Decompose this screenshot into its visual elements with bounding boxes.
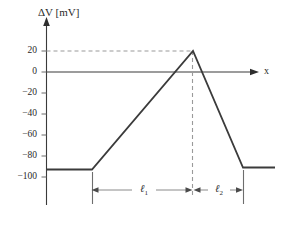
x-axis-arrowhead	[250, 69, 259, 76]
y-tick-label-m80: −80	[22, 150, 37, 160]
segment-2-measure: ℓ2	[194, 182, 244, 197]
x-axis	[47, 69, 260, 76]
y-axis-title: ΔV [mV]	[38, 6, 79, 18]
voltage-profile-figure: ΔV [mV] x 20 0 −20 −40 −60 −80 −100	[0, 0, 285, 225]
y-axis-arrowhead	[43, 17, 50, 26]
y-tick-marks	[42, 51, 47, 177]
y-tick-label-m100: −100	[17, 171, 37, 181]
segment-2-arrow-left	[194, 187, 201, 193]
y-tick-label-20: 20	[28, 45, 38, 55]
y-tick-label-0: 0	[32, 66, 37, 76]
y-tick-label-m60: −60	[22, 129, 37, 139]
y-tick-labels: 20 0 −20 −40 −60 −80 −100	[17, 45, 37, 181]
chart-svg: ΔV [mV] x 20 0 −20 −40 −60 −80 −100	[0, 0, 285, 225]
x-axis-name: x	[264, 65, 269, 76]
segment-2-arrow-right	[236, 187, 243, 193]
y-tick-label-m40: −40	[22, 108, 37, 118]
y-tick-label-m20: −20	[22, 87, 37, 97]
segment-1-measure: ℓ1	[92, 182, 193, 197]
voltage-trace	[47, 51, 275, 170]
segment-1-arrow-right	[186, 187, 193, 193]
